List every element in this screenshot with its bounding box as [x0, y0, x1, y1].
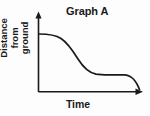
y-axis-arrow-icon — [35, 12, 41, 19]
data-curve-graph-a — [39, 34, 140, 90]
chart-title: Graph A — [66, 6, 108, 18]
y-axis-label-text: Distance from ground — [0, 18, 31, 58]
graph-figure: Graph A Distance from ground Time — [0, 0, 150, 116]
x-axis-label: Time — [66, 99, 90, 110]
